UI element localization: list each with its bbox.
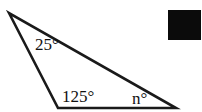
redaction-block (168, 10, 201, 40)
angle-label-base-right: n° (132, 90, 147, 107)
angle-label-apex: 25° (35, 36, 59, 53)
angle-label-base-left: 125° (62, 88, 94, 105)
geometry-figure: 25° 125° n° (0, 0, 202, 112)
